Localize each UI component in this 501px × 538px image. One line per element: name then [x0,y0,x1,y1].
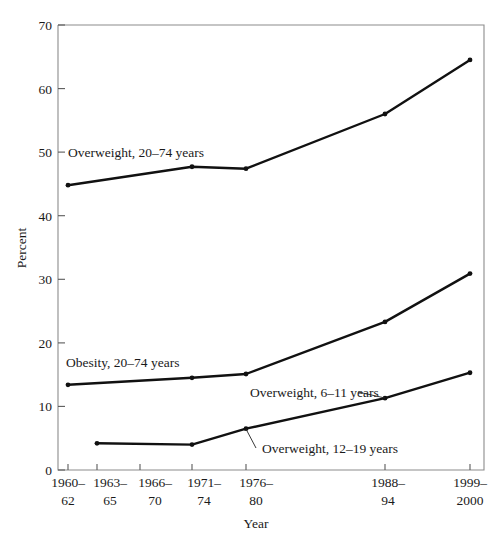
y-tick-label: 70 [39,18,53,33]
x-tick-label-top: 1960– [51,475,85,490]
line-chart: 0 10 20 30 40 50 60 70 Percent 1960– 62 … [0,0,501,538]
series-data-point [468,58,473,63]
annotation-overweight-12-19: Overweight, 12–19 years [262,441,398,456]
y-tick-label: 30 [39,272,53,287]
annotation-obesity-adults: Obesity, 20–74 years [66,355,179,370]
y-tick-label: 50 [39,145,53,160]
series-data-point [383,112,388,117]
x-tick-label-top: 1963– [93,475,127,490]
series-data-point [95,441,100,446]
x-tick-label-top: 1988– [371,475,405,490]
series-data-point [383,319,388,324]
x-tick-label-bottom: 65 [103,493,117,508]
x-tick-label-bottom: 74 [197,493,211,508]
x-tick-label-bottom: 2000 [457,493,484,508]
y-tick-label: 60 [39,82,53,97]
series-data-point [383,396,388,401]
x-tick-label-bottom: 80 [249,493,263,508]
x-tick-label-top: 1999– [453,475,487,490]
series-data-point [244,426,249,431]
x-tick-label-top: 1971– [187,475,221,490]
series-data-point [190,375,195,380]
series-data-point [66,183,71,188]
y-tick-label: 10 [39,399,53,414]
x-tick-label-top: 1966– [138,475,172,490]
x-axis-title: Year [244,516,269,531]
y-axis-title: Percent [14,228,29,269]
series-data-point [190,164,195,169]
series-data-point [190,442,195,447]
series-data-point [244,166,249,171]
x-tick-label-bottom: 94 [381,493,395,508]
x-tick-label-bottom: 70 [148,493,162,508]
chart-background [0,0,501,538]
x-tick-label-top: 1976– [239,475,273,490]
y-tick-label: 40 [39,209,53,224]
y-tick-label: 20 [39,336,53,351]
x-tick-label-bottom: 62 [61,493,75,508]
series-data-point [244,372,249,377]
annotation-overweight-adults: Overweight, 20–74 years [68,145,204,160]
series-data-point [468,370,473,375]
series-data-point [468,271,473,276]
annotation-overweight-6-11: Overweight, 6–11 years [250,385,379,400]
chart-figure: 0 10 20 30 40 50 60 70 Percent 1960– 62 … [0,0,501,538]
series-data-point [66,382,71,387]
